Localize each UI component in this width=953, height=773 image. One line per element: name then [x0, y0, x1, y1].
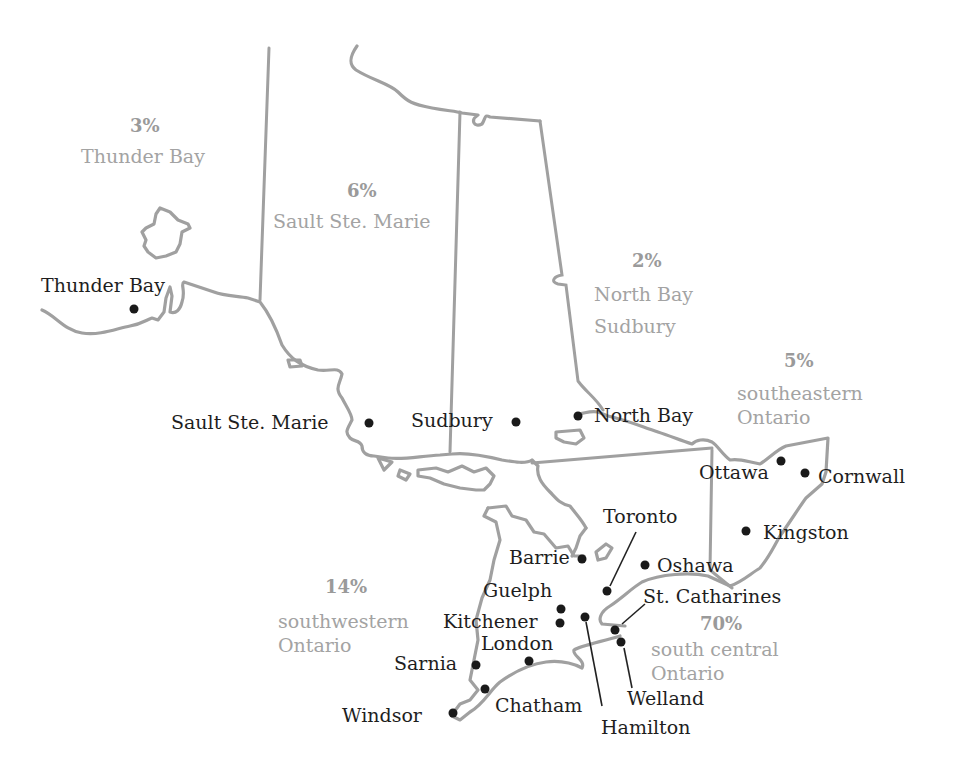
dot-guelph [557, 605, 566, 614]
city-label-toronto: Toronto [603, 507, 677, 526]
dot-thunder-bay [130, 305, 139, 314]
dot-windsor [449, 709, 458, 718]
city-label-welland: Welland [627, 689, 704, 708]
border-south-north [532, 448, 712, 463]
region-name-southeastern-ontario: Ontario [737, 408, 810, 427]
city-label-thunder-bay: Thunder Bay [41, 276, 165, 295]
dot-oshawa [641, 561, 650, 570]
region-name-sault-ste-marie: Sault Ste. Marie [273, 212, 431, 231]
region-percent-southwestern: 14% [325, 578, 367, 596]
city-label-barrie: Barrie [509, 548, 570, 567]
dot-north-bay [574, 412, 583, 421]
dot-sudbury [512, 418, 521, 427]
dot-chatham [481, 685, 490, 694]
region-name-sudbury: Sudbury [594, 317, 676, 336]
leader-hamilton [586, 622, 602, 706]
leader-st-catharines [622, 604, 645, 624]
region-name-southeastern: southeastern [737, 384, 863, 403]
border-northbay-east [540, 121, 603, 410]
island-manitoulin [418, 466, 494, 490]
dot-barrie [578, 555, 587, 564]
lake-superior-shore [42, 282, 586, 528]
region-percent-sault-ste-marie: 6% [347, 182, 377, 200]
region-name-south-central: south central [651, 640, 779, 659]
region-percent-thunder-bay: 3% [130, 117, 160, 135]
dot-sault-ste-marie [365, 419, 374, 428]
dot-toronto [603, 587, 612, 596]
city-label-north-bay: North Bay [594, 406, 693, 425]
city-label-ottawa: Ottawa [699, 463, 769, 482]
border-west [260, 48, 269, 300]
leader-toronto [610, 532, 636, 586]
dot-st-catharines [611, 626, 620, 635]
region-name-north-bay: North Bay [594, 285, 693, 304]
lake-simcoe [596, 544, 612, 560]
region-name-southwestern-ontario: Ontario [278, 636, 351, 655]
island-north-channel-1 [378, 458, 392, 470]
region-percent-north-bay-sudbury: 2% [632, 252, 662, 270]
city-label-oshawa: Oshawa [657, 556, 733, 575]
region-percent-south-central: 70% [700, 615, 742, 633]
city-label-st-catharines: St. Catharines [643, 587, 781, 606]
dot-cornwall [801, 469, 810, 478]
northern-coastline [351, 46, 540, 125]
dot-sarnia [472, 661, 481, 670]
island-nipigon [142, 208, 190, 258]
city-label-sudbury: Sudbury [411, 411, 493, 430]
dot-kingston [742, 527, 751, 536]
lake-nipissing-island [556, 430, 584, 444]
city-label-windsor: Windsor [342, 706, 422, 725]
city-label-sault-ste-marie: Sault Ste. Marie [171, 413, 329, 432]
city-label-guelph: Guelph [483, 581, 552, 600]
georgian-bay-east [572, 528, 586, 556]
region-name-south-central-ontario: Ontario [651, 664, 724, 683]
island-north-channel-2 [398, 470, 410, 480]
city-label-hamilton: Hamilton [601, 718, 690, 737]
city-label-chatham: Chatham [495, 696, 582, 715]
city-label-kitchener: Kitchener [443, 612, 538, 631]
region-name-thunder-bay: Thunder Bay [81, 147, 205, 166]
dot-ottawa [777, 457, 786, 466]
island-superior-1 [288, 360, 302, 367]
dot-welland [617, 638, 626, 647]
dot-hamilton [581, 613, 590, 622]
region-name-southwestern: southwestern [278, 612, 409, 631]
city-label-kingston: Kingston [763, 523, 849, 542]
city-label-cornwall: Cornwall [818, 467, 905, 486]
border-sault-sudbury [450, 112, 460, 452]
dot-kitchener [556, 619, 565, 628]
city-label-london: London [481, 634, 553, 653]
leader-welland [624, 648, 632, 688]
dot-london [525, 657, 534, 666]
city-label-sarnia: Sarnia [394, 654, 457, 673]
region-percent-southeastern: 5% [784, 352, 814, 370]
